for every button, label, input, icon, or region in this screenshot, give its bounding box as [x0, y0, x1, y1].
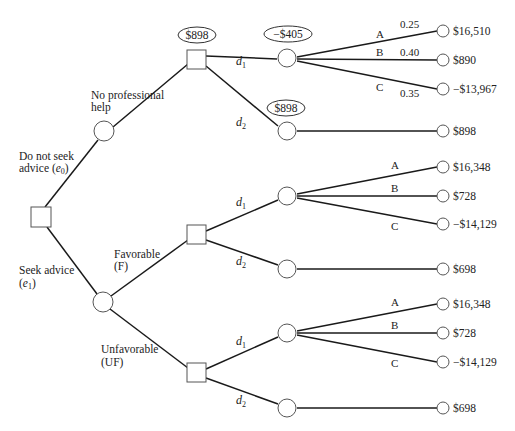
- payoff-fav-A: $16,348: [453, 161, 491, 174]
- ev-d2-value: $898: [275, 102, 298, 114]
- payoff-unfav-d2: $698: [453, 402, 476, 414]
- payoff-unfav-A: $16,348: [453, 298, 491, 311]
- fav-branch-C: C: [391, 220, 398, 232]
- unfav-branch-C: C: [391, 357, 398, 369]
- fav-d1-chance-node: [278, 187, 296, 205]
- unfav-d1-label: d1: [236, 334, 246, 350]
- edge-root-e1: [47, 227, 97, 294]
- no-help-decision-node: [187, 50, 206, 69]
- terminal-node: [437, 161, 449, 173]
- top-d2-label: d2: [236, 115, 246, 131]
- top-prob-A: 0.25: [400, 18, 420, 30]
- fav-d2-label: d2: [236, 254, 246, 270]
- root-decision-node: [31, 207, 51, 227]
- terminal-node: [437, 263, 449, 275]
- terminal-node: [437, 402, 449, 414]
- terminal-node: [437, 83, 449, 95]
- e1-label-line1: Seek advice: [19, 264, 74, 276]
- edge-top-C: [297, 61, 437, 89]
- no-advice-chance-node: [94, 121, 114, 141]
- e1-label-line2: (e1): [19, 277, 36, 291]
- nodes: [31, 25, 449, 417]
- unfav-d2-chance-node: [278, 399, 296, 417]
- terminal-node: [437, 356, 449, 368]
- edge-top-d2: [206, 66, 278, 126]
- unfav-d1-chance-node: [278, 324, 296, 342]
- outcome-branch-labels: A 0.25 B 0.40 C 0.35 A B C A B C: [376, 18, 420, 369]
- edge-top-B: [297, 59, 437, 60]
- unfavorable-label-line1: Unfavorable: [101, 343, 158, 355]
- payoffs: $16,510 $890 −$13,967 $898 $16,348 $728 …: [453, 25, 497, 414]
- favorable-label-line2: (F): [114, 260, 128, 273]
- terminal-node: [437, 125, 449, 137]
- payoff-fav-B: $728: [453, 190, 476, 202]
- terminal-node: [437, 327, 449, 339]
- seek-advice-chance-node: [93, 292, 113, 312]
- terminal-node: [437, 218, 449, 230]
- ev-d1-value: −$405: [273, 28, 303, 40]
- fav-branch-B: B: [391, 182, 398, 194]
- decision-tree-diagram: $898 −$405 $898 Do not seek advice (e0) …: [0, 0, 515, 431]
- unfavorable-decision-node: [187, 363, 206, 382]
- branch-labels: Do not seek advice (e0) Seek advice (e1)…: [19, 89, 164, 369]
- terminal-node: [437, 298, 449, 310]
- unfav-d2-label: d2: [236, 393, 246, 409]
- top-prob-B: 0.40: [400, 46, 420, 58]
- favorable-decision-node: [187, 225, 206, 244]
- no-help-label-line2: help: [91, 101, 111, 114]
- edge-unfav-A: [297, 304, 437, 331]
- terminal-node: [437, 190, 449, 202]
- unfav-branch-A: A: [391, 296, 399, 308]
- edge-unfav-C: [297, 335, 437, 362]
- top-d1-label: d1: [236, 54, 246, 70]
- fav-d2-chance-node: [278, 260, 296, 278]
- favorable-label-line1: Favorable: [114, 248, 160, 260]
- e0-label-line1: Do not seek: [19, 150, 74, 162]
- unfavorable-label-line2: (UF): [101, 356, 124, 369]
- edge-fav-C: [297, 198, 437, 224]
- payoff-top-C: −$13,967: [453, 83, 497, 96]
- payoff-top-B: $890: [453, 54, 476, 66]
- ev-decision-value: $898: [186, 29, 209, 41]
- top-branch-B: B: [376, 46, 383, 58]
- fav-branch-A: A: [391, 159, 399, 171]
- top-branch-C: C: [376, 81, 383, 93]
- top-branch-A: A: [376, 28, 384, 40]
- payoff-unfav-C: −$14,129: [453, 356, 497, 369]
- e0-label-line2: advice (e0): [19, 162, 69, 176]
- payoff-top-A: $16,510: [453, 25, 491, 38]
- top-prob-C: 0.35: [400, 87, 420, 99]
- expected-values: $898 −$405 $898: [178, 26, 312, 116]
- top-d2-chance-node: [278, 122, 296, 140]
- terminal-node: [437, 54, 449, 66]
- fav-d1-label: d1: [236, 195, 246, 211]
- terminal-node: [437, 25, 449, 37]
- top-d1-chance-node: [278, 49, 296, 67]
- unfav-branch-B: B: [391, 319, 398, 331]
- payoff-unfav-B: $728: [453, 327, 476, 339]
- payoff-fav-d2: $698: [453, 263, 476, 275]
- payoff-top-d2: $898: [453, 125, 476, 137]
- edge-fav-A: [297, 167, 437, 194]
- payoff-fav-C: −$14,129: [453, 218, 497, 231]
